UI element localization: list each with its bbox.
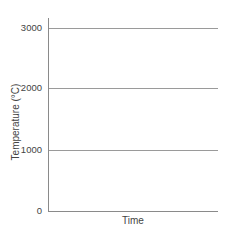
gridline-3000 [49, 28, 218, 29]
y-tick-0: 0 [0, 205, 42, 216]
gridline-1000 [49, 150, 218, 151]
x-axis [48, 211, 218, 212]
y-tick-2000: 2000 [0, 82, 42, 93]
gridline-2000 [49, 88, 218, 89]
y-tick-3000: 3000 [0, 22, 42, 33]
y-tick-1000: 1000 [0, 144, 42, 155]
temperature-time-chart: Temperature (°C) Time 3000 2000 1000 0 [0, 0, 229, 236]
x-axis-label: Time [122, 215, 144, 226]
y-axis [48, 18, 49, 212]
